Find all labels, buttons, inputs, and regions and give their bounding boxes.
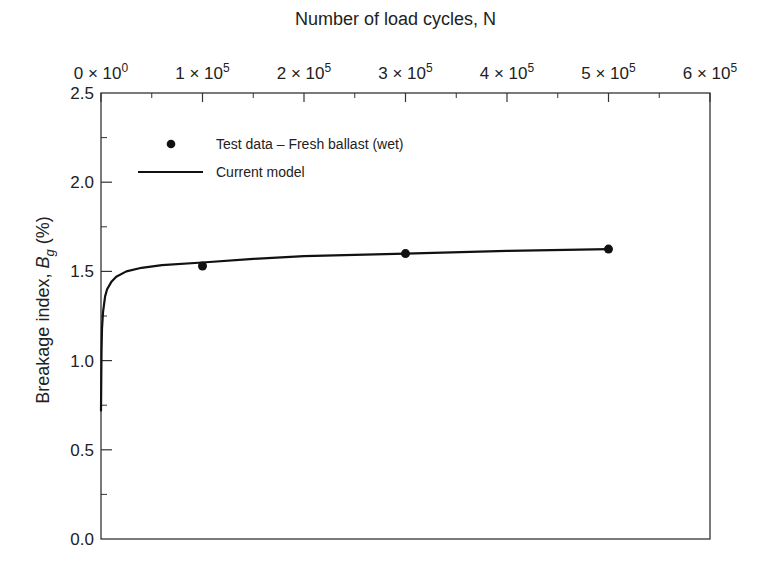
x-tick-label: 5 × 105 xyxy=(581,61,636,83)
y-axis-title: Breakage index, Bg (%) xyxy=(33,216,57,403)
x-tick-label: 6 × 105 xyxy=(683,61,738,83)
legend-dot-icon xyxy=(167,140,176,149)
y-tick-label: 1.5 xyxy=(70,262,94,281)
x-tick-label: 1 × 105 xyxy=(175,61,230,83)
x-tick-label: 2 × 105 xyxy=(277,61,332,83)
x-axis-ticks: 0 × 1001 × 1052 × 1053 × 1054 × 1055 × 1… xyxy=(74,61,738,102)
test-data-point xyxy=(401,249,410,258)
y-axis-ticks: 0.00.51.01.52.02.5 xyxy=(70,84,112,549)
y-axis-title-text: Breakage index, Bg (%) xyxy=(33,216,57,403)
breakage-index-chart: Number of load cycles, N Breakage index,… xyxy=(0,0,772,584)
legend-label-current-model: Current model xyxy=(216,164,305,180)
model-curve xyxy=(101,249,609,411)
x-axis-title: Number of load cycles, N xyxy=(295,9,496,29)
y-tick-label: 2.5 xyxy=(70,84,94,103)
legend-label-test-data: Test data – Fresh ballast (wet) xyxy=(216,136,404,152)
x-axis-title-text: Number of load cycles, N xyxy=(295,9,496,29)
plot-frame xyxy=(101,93,710,539)
x-tick-label: 0 × 100 xyxy=(74,61,129,83)
y-tick-label: 2.0 xyxy=(70,173,94,192)
test-data-point xyxy=(198,262,207,271)
legend: Test data – Fresh ballast (wet)Current m… xyxy=(138,136,404,180)
y-tick-label: 0.5 xyxy=(70,441,94,460)
x-tick-label: 3 × 105 xyxy=(378,61,433,83)
y-tick-label: 0.0 xyxy=(70,530,94,549)
test-data-point xyxy=(604,245,613,254)
y-tick-label: 1.0 xyxy=(70,352,94,371)
x-tick-label: 4 × 105 xyxy=(480,61,535,83)
plot-series xyxy=(101,245,613,411)
chart-canvas: Number of load cycles, N Breakage index,… xyxy=(0,0,772,584)
